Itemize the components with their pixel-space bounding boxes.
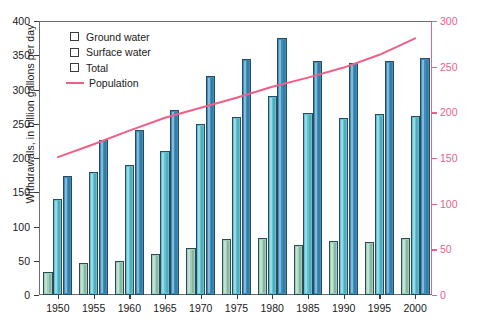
x-axis-tick: [201, 295, 202, 299]
x-axis-tick: [379, 295, 380, 299]
y-axis-right-tick: [432, 295, 437, 296]
y-axis-left-tick: [34, 192, 39, 193]
y-axis-right-tick: [432, 67, 437, 68]
bar-surface-water: [303, 113, 312, 295]
bar-ground-water: [79, 263, 88, 295]
y-axis-left-tick-label: 0: [0, 290, 30, 301]
bar-total: [242, 59, 251, 295]
bar-total: [99, 140, 108, 295]
x-axis-tick: [344, 295, 345, 299]
legend-swatch-total: [70, 63, 79, 72]
y-axis-left-tick: [34, 55, 39, 56]
bar-total: [313, 61, 322, 295]
legend-item-population: Population: [70, 77, 151, 90]
bar-ground-water: [329, 241, 338, 295]
y-axis-right-tick-label: 150: [440, 153, 470, 164]
bar-total: [349, 63, 358, 295]
y-axis-left-tick: [34, 227, 39, 228]
y-axis-left-tick-label: 100: [0, 222, 30, 233]
y-axis-right-tick: [432, 249, 437, 250]
bar-surface-water: [232, 117, 241, 295]
y-axis-left-tick-label: 300: [0, 85, 30, 96]
legend-item-total: Total: [70, 61, 151, 74]
y-axis-right-tick: [432, 204, 437, 205]
y-axis-left-tick-label: 250: [0, 119, 30, 130]
y-axis-left-tick: [34, 158, 39, 159]
y-axis-left-tick-label: 200: [0, 153, 30, 164]
x-axis-tick: [272, 295, 273, 299]
y-axis-left-tick: [34, 295, 39, 296]
bar-surface-water: [411, 116, 420, 295]
bar-total: [135, 130, 144, 295]
y-axis-left-tick-label: 150: [0, 187, 30, 198]
y-axis-left-tick-label: 400: [0, 16, 30, 27]
bar-ground-water: [365, 242, 374, 295]
x-axis-tick: [58, 295, 59, 299]
legend-label-surface-water: Surface water: [86, 46, 151, 58]
x-axis-tick: [237, 295, 238, 299]
x-axis-tick: [94, 295, 95, 299]
bar-surface-water: [89, 172, 98, 295]
bar-total: [420, 58, 429, 295]
legend-label-total: Total: [86, 62, 108, 74]
legend-line-population: [66, 82, 84, 84]
legend-label-ground-water: Ground water: [86, 31, 150, 43]
y-axis-left-tick-label: 50: [0, 256, 30, 267]
bar-ground-water: [43, 272, 52, 295]
bar-total: [277, 38, 286, 295]
y-axis-left-tick: [34, 90, 39, 91]
bar-surface-water: [53, 199, 62, 295]
y-axis-right-tick-label: 50: [440, 244, 470, 255]
y-axis-left-tick-label: 350: [0, 50, 30, 61]
y-axis-left-tick: [34, 21, 39, 22]
y-axis-right-tick: [432, 112, 437, 113]
y-axis-right-tick-label: 100: [440, 199, 470, 210]
y-axis-right-tick: [432, 21, 437, 22]
chart-legend: Ground water Surface water Total Populat…: [70, 30, 151, 92]
x-axis-tick: [129, 295, 130, 299]
y-axis-right-tick-label: 200: [440, 107, 470, 118]
legend-label-population: Population: [89, 77, 139, 89]
bar-ground-water: [115, 261, 124, 295]
y-axis-left-tick: [34, 124, 39, 125]
bar-ground-water: [222, 239, 231, 295]
legend-item-ground-water: Ground water: [70, 30, 151, 43]
x-axis-tick: [308, 295, 309, 299]
bar-ground-water: [258, 238, 267, 295]
x-axis-tick: [415, 295, 416, 299]
chart-figure: Withdrawals, in billion gallons per day …: [0, 0, 495, 323]
bar-ground-water: [401, 238, 410, 295]
x-axis-tick: [165, 295, 166, 299]
bar-ground-water: [294, 245, 303, 295]
bar-surface-water: [125, 165, 134, 295]
legend-swatch-surface-water: [70, 48, 79, 57]
bar-ground-water: [186, 248, 195, 295]
y-axis-right-tick-label: 250: [440, 62, 470, 73]
bar-surface-water: [339, 118, 348, 295]
bar-total: [63, 176, 72, 295]
y-axis-right-tick-label: 0: [440, 290, 470, 301]
bar-total: [206, 76, 215, 295]
bar-surface-water: [160, 151, 169, 295]
bar-surface-water: [375, 114, 384, 295]
x-axis-tick-label: 2000: [393, 303, 437, 314]
bar-total: [170, 110, 179, 295]
bar-surface-water: [196, 124, 205, 295]
bar-surface-water: [268, 96, 277, 295]
y-axis-left-tick: [34, 261, 39, 262]
y-axis-right-tick: [432, 158, 437, 159]
legend-swatch-ground-water: [70, 32, 79, 41]
y-axis-right-tick-label: 300: [440, 16, 470, 27]
bar-total: [385, 61, 394, 295]
bar-ground-water: [151, 254, 160, 295]
legend-item-surface-water: Surface water: [70, 46, 151, 59]
